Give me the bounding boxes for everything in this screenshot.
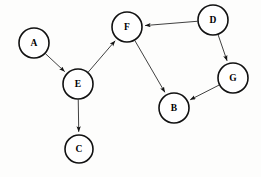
- graph-node-d[interactable]: D: [198, 5, 228, 35]
- graph-node-c[interactable]: C: [65, 135, 93, 163]
- graph-edge-a-to-e: [45, 54, 64, 72]
- graph-node-f[interactable]: F: [112, 12, 142, 42]
- node-label-d: D: [210, 15, 217, 25]
- nodes-layer: ABCDEFG: [19, 5, 248, 163]
- node-label-c: C: [76, 144, 83, 154]
- node-label-a: A: [31, 38, 38, 48]
- graph-node-b[interactable]: B: [159, 93, 189, 123]
- graph-edge-d-to-g: [218, 35, 227, 61]
- graph-canvas: ABCDEFG: [0, 0, 261, 177]
- graph-edge-e-to-f: [88, 41, 115, 72]
- node-label-e: E: [75, 79, 81, 89]
- graph-edge-d-to-f: [145, 21, 197, 25]
- graph-node-a[interactable]: A: [19, 28, 49, 58]
- graph-edge-f-to-b: [135, 40, 165, 92]
- graph-node-g[interactable]: G: [218, 63, 248, 93]
- graph-node-e[interactable]: E: [63, 69, 93, 99]
- node-label-f: F: [124, 22, 130, 32]
- node-label-g: G: [229, 73, 237, 83]
- graph-diagram: ABCDEFG: [0, 0, 261, 177]
- graph-edge-g-to-b: [190, 85, 219, 100]
- node-label-b: B: [171, 103, 178, 113]
